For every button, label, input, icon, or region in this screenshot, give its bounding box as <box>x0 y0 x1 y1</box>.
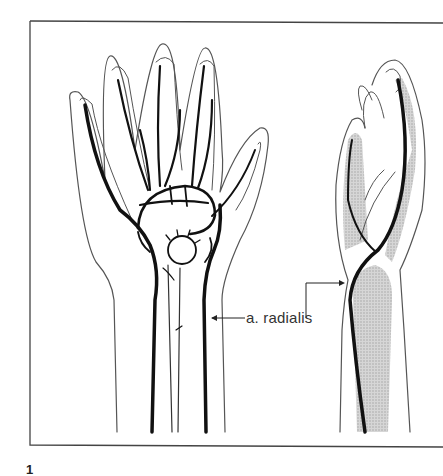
hand-side-view <box>336 60 425 432</box>
carpal-circle <box>168 236 196 264</box>
hand-artery-illustration <box>0 0 443 476</box>
hand-front-view <box>70 44 269 432</box>
artery-label: a. radialis <box>246 309 312 326</box>
figure-number: 1 <box>26 462 33 476</box>
palmar-arch <box>138 186 215 234</box>
bone-shading <box>353 265 392 432</box>
